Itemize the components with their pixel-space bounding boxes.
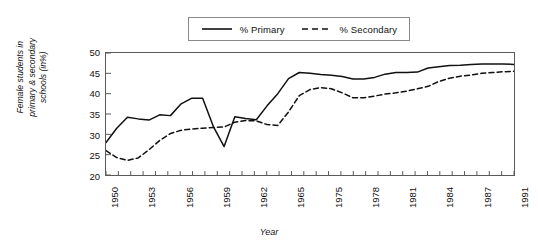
legend-line-dashed-icon: [301, 25, 333, 33]
x-tick-label: 1950: [109, 187, 120, 208]
y-tick-label: 30: [89, 129, 100, 140]
y-axis-title-line-1: Female students in: [15, 12, 27, 142]
legend-entry-secondary: % Secondary: [301, 24, 398, 35]
x-tick-label: 1991: [519, 187, 530, 208]
x-tick-label: 1959: [221, 187, 232, 208]
y-tick-label: 35: [89, 109, 100, 120]
x-tick-label: 1975: [333, 187, 344, 208]
y-axis-title-line-3: schools (in%): [38, 12, 50, 142]
x-tick-label: 1984: [444, 187, 455, 208]
x-axis-tick-labels: 1950195319561959196219651975197819811984…: [105, 180, 515, 222]
x-tick-label: 1962: [258, 187, 269, 208]
chart-figure: % Primary % Secondary 50454035302520 Fem…: [0, 0, 538, 249]
y-tick-label: 25: [89, 150, 100, 161]
x-tick-label: 1978: [370, 187, 381, 208]
x-tick-label: 1981: [407, 187, 418, 208]
legend-line-solid-icon: [201, 25, 233, 33]
plot-canvas: [106, 53, 514, 175]
legend-label-secondary: % Secondary: [340, 24, 398, 35]
y-tick-label: 40: [89, 88, 100, 99]
legend-entry-primary: % Primary: [201, 24, 285, 35]
x-tick-label: 1956: [184, 187, 195, 208]
series-line-primary: [106, 64, 514, 147]
x-tick-label: 1965: [295, 187, 306, 208]
plot-area: [105, 52, 515, 176]
chart-legend: % Primary % Secondary: [188, 17, 410, 41]
x-tick-label: 1953: [146, 187, 157, 208]
legend-label-primary: % Primary: [240, 24, 285, 35]
y-tick-label: 45: [89, 67, 100, 78]
y-axis-tick-labels: 50454035302520: [64, 44, 100, 184]
y-axis-title: Female students in primary & secondary s…: [15, 12, 50, 142]
y-tick-label: 20: [89, 171, 100, 182]
x-axis-title: Year: [0, 227, 538, 237]
y-axis-title-line-2: primary & secondary: [26, 12, 38, 142]
y-tick-label: 50: [89, 47, 100, 58]
x-tick-label: 1987: [482, 187, 493, 208]
